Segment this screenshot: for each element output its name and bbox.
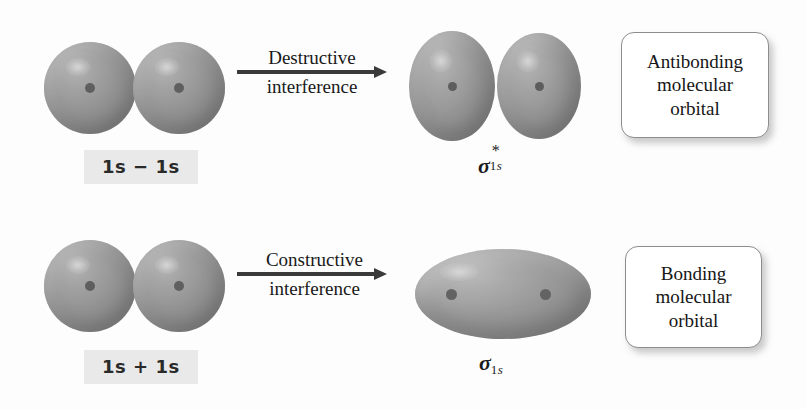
- arrow-shaft-container: [237, 69, 387, 75]
- atomic-orbital-sphere-left-bottom: [44, 240, 136, 332]
- lobe-highlight: [440, 263, 479, 281]
- nucleus-left: [446, 289, 457, 300]
- reactant-caption-bonding: 1s + 1s: [84, 350, 198, 384]
- atomic-orbital-sphere-right-top: [133, 42, 225, 134]
- arrow-label-line2: interference: [237, 278, 392, 299]
- callout-line3: orbital: [656, 309, 732, 332]
- product-label-bonding: σ1s: [479, 350, 503, 378]
- callout-line1: Antibonding: [647, 50, 743, 73]
- atomic-orbital-sphere-left-top: [44, 42, 136, 134]
- nucleus-right: [540, 289, 551, 300]
- sphere-highlight: [155, 256, 179, 274]
- arrow-label-line2: interference: [237, 76, 387, 97]
- sigma-subscript: 1s: [490, 158, 502, 174]
- antibonding-lobe-right: [497, 33, 581, 139]
- destructive-interference-arrow-group: Destructive interference: [237, 47, 387, 98]
- sigma-scripts: *1s: [490, 152, 506, 173]
- callout-line2: molecular: [656, 285, 732, 308]
- antibonding-lobe-left: [409, 31, 495, 141]
- reactant-right-term: 1s: [155, 156, 179, 177]
- arrow-shaft-container: [237, 271, 392, 277]
- atomic-orbital-sphere-right-bottom: [133, 240, 225, 332]
- sphere-highlight: [66, 256, 90, 274]
- molecular-orbital-diagram: 1s − 1s Destructive interference σ*1s An…: [0, 0, 807, 409]
- callout-line1: Bonding: [656, 262, 732, 285]
- callout-text-antibonding: Antibonding molecular orbital: [647, 50, 743, 120]
- reactant-operator: +: [133, 356, 149, 377]
- reactant-caption-antibonding: 1s − 1s: [84, 150, 198, 184]
- sphere-highlight: [66, 58, 90, 76]
- product-label-antibonding: σ*1s: [478, 152, 506, 179]
- sigma-symbol: σ: [479, 350, 491, 375]
- callout-bonding: Bonding molecular orbital: [625, 246, 762, 348]
- arrow-label-line1: Destructive: [237, 47, 387, 68]
- callout-text-bonding: Bonding molecular orbital: [656, 262, 732, 332]
- arrow-label-line1: Constructive: [237, 249, 392, 270]
- reactant-left-term: 1s: [102, 356, 126, 377]
- reactant-left-term: 1s: [102, 156, 126, 177]
- sphere-highlight: [155, 58, 179, 76]
- sigma-subscript: 1s: [491, 362, 503, 377]
- lobe-highlight: [517, 51, 539, 72]
- arrow-shaft: [237, 70, 374, 74]
- callout-antibonding: Antibonding molecular orbital: [621, 32, 769, 138]
- reactant-operator: −: [133, 156, 149, 177]
- arrow-head-icon: [374, 268, 387, 280]
- callout-line2: molecular: [647, 73, 743, 96]
- constructive-interference-arrow-group: Constructive interference: [237, 249, 392, 300]
- sigma-symbol: σ: [478, 153, 490, 178]
- callout-line3: orbital: [647, 97, 743, 120]
- arrow-shaft: [237, 272, 374, 276]
- arrow-head-icon: [374, 66, 387, 78]
- bonding-orbital-lobe: [415, 249, 591, 339]
- reactant-right-term: 1s: [155, 356, 179, 377]
- lobe-highlight: [430, 50, 452, 72]
